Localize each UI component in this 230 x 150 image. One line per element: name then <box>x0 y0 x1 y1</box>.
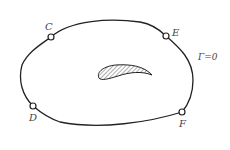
point-e-marker <box>163 33 169 39</box>
point-f-marker <box>179 109 185 115</box>
airfoil-profile <box>98 65 152 80</box>
contour-label: Γ=0 <box>197 52 218 62</box>
point-c-label: C <box>45 21 53 32</box>
point-e-label: E <box>171 27 180 38</box>
point-f-label: F <box>178 118 187 129</box>
point-d-label: D <box>28 112 37 123</box>
point-c-marker <box>48 34 54 40</box>
circulation-contour-diagram: C E D F Γ=0 <box>0 0 230 150</box>
point-d-marker <box>30 103 36 109</box>
